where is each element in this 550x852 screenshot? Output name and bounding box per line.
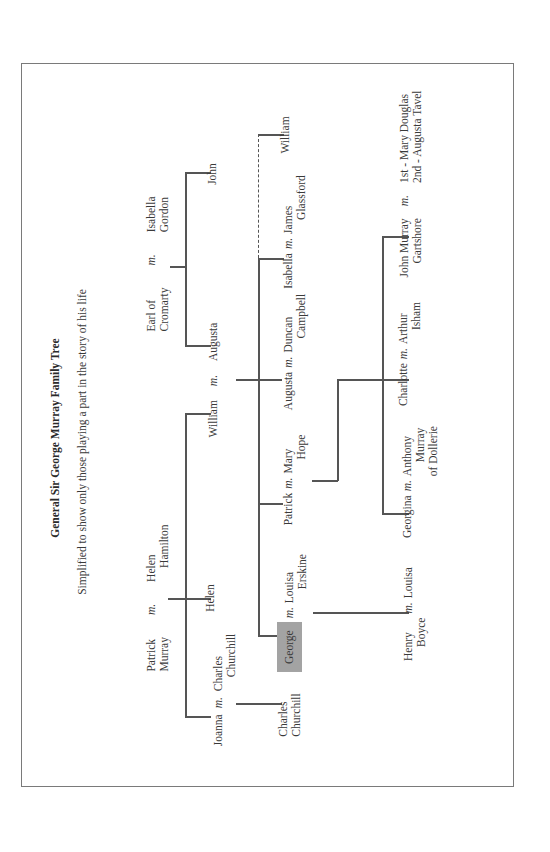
person-louisa-erskine: Louisa Erskine (277, 554, 309, 603)
william-children-line (258, 258, 260, 636)
person-anthony-murray: Anthony Murray of Dollerie (401, 426, 440, 476)
person-john-murray-gartshore: John Murray Gartshore (398, 218, 424, 277)
person-charles-churchill: Charles Churchill (212, 634, 238, 691)
william-children-dashed-line (258, 134, 259, 258)
murray-children-line (185, 413, 187, 717)
cromarty-children-line (185, 172, 187, 346)
label-text: Helen (204, 584, 217, 611)
marriage-marker: m. (212, 697, 225, 708)
label-text: Churchill (290, 693, 303, 736)
person-george-highlighted: George (277, 622, 302, 672)
person-patrick-murray: Patrick Murray (145, 637, 171, 672)
label-text: James (282, 175, 295, 234)
marriage-marker: m. (282, 357, 295, 368)
person-henry-boyce: Henry Boyce (402, 618, 428, 661)
patrick-children-line (382, 236, 384, 514)
label-text: Hope (295, 435, 308, 474)
label-text: 2nd - Augusta Tavel (411, 90, 424, 183)
label-text: John Murray (398, 218, 411, 277)
person-augusta-jr: Augusta (282, 372, 295, 410)
page-subtitle: Simplified to show only those playing a … (76, 289, 89, 595)
marriage-marker: m. (402, 602, 415, 613)
patrick-mary-marriage-line (312, 480, 338, 482)
label-text: Patrick (145, 637, 158, 672)
label-text: Erskine (296, 554, 309, 603)
cromarty-marriage-line (170, 266, 186, 268)
marriage-marker: m. (145, 254, 158, 265)
page-title: General Sir George Murray Family Tree (49, 338, 62, 537)
label-text: Hamilton (158, 524, 171, 581)
label-text: 1st - Mary Douglas (398, 90, 411, 183)
person-georgina: Georgina (401, 495, 414, 538)
label-text: Isabella (145, 196, 158, 232)
person-patrick: Patrick (282, 493, 295, 526)
person-louisa: Louisa (402, 567, 415, 598)
patrick-mary-drop-line (337, 379, 339, 481)
george-louisa-children-line (313, 612, 409, 614)
label-text: John (206, 163, 219, 185)
label-text: Murray (158, 637, 171, 672)
label-text: Campbell (295, 294, 308, 353)
label-text: Charles (212, 634, 225, 691)
label-text: Charles (277, 693, 290, 736)
branch-isabella (258, 258, 284, 260)
marriage-marker: m. (207, 375, 220, 386)
label-text: Anthony (401, 426, 414, 476)
person-augusta: Augusta (207, 323, 220, 361)
label-text: William (279, 116, 292, 153)
label-text: Murray (414, 426, 427, 476)
marriage-marker: m. (277, 607, 296, 618)
label-text: of Dollerie (427, 426, 440, 476)
person-james-glassford: James Glassford (282, 175, 308, 234)
label-text: Cromarty (158, 287, 171, 331)
label-text: Gordon (158, 196, 171, 232)
marriage-marker: m. (398, 195, 411, 206)
label-text: Isham (410, 302, 423, 344)
person-isabella: Isabella (282, 253, 295, 289)
label-text: Mary (282, 435, 295, 474)
label-text: Louisa (283, 554, 296, 603)
label-text: Boyce (415, 618, 428, 661)
person-arthur-isham: Arthur Isham (397, 302, 423, 344)
person-earl-of-cromarty: Earl of Cromarty (145, 287, 171, 331)
john-murray-spouses: 1st - Mary Douglas 2nd - Augusta Tavel (398, 90, 424, 183)
person-joanna: Joanna (212, 714, 225, 746)
person-william: William (207, 400, 220, 437)
person-charlotte: Charlotte (397, 363, 410, 406)
person-duncan-campbell: Duncan Campbell (282, 294, 308, 353)
marriage-marker: m. (282, 238, 295, 249)
marriage-marker: m. (282, 478, 295, 489)
label-text: Churchill (225, 634, 238, 691)
person-helen-hamilton: Helen Hamilton (145, 524, 171, 581)
label-text: Henry (402, 618, 415, 661)
label-text: Duncan (282, 294, 295, 353)
person-isabella-gordon: Isabella Gordon (145, 196, 171, 232)
marriage-marker: m. (401, 480, 414, 491)
joanna-charles-marriage-line (236, 703, 282, 705)
marriage-marker: m. (145, 604, 158, 615)
branch-patrick (258, 503, 283, 505)
label-text: Arthur (397, 302, 410, 344)
page-border (21, 63, 514, 787)
label-text: Glassford (295, 175, 308, 234)
label-text: Helen (145, 524, 158, 581)
marriage-marker: m. (397, 348, 410, 359)
label-text: Earl of (145, 287, 158, 331)
branch-joanna (185, 716, 211, 718)
person-mary-hope: Mary Hope (282, 435, 308, 474)
label-text: Gartshore (411, 218, 424, 277)
